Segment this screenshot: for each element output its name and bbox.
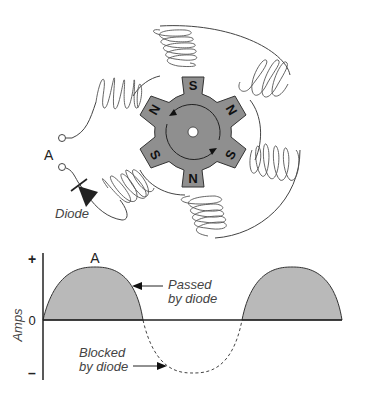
tick-minus: – [28, 365, 36, 381]
current-graph: + 0 – Amps A Passed by diode Blocked by … [10, 250, 342, 381]
coil-top [153, 30, 196, 67]
terminal-label: A [44, 147, 54, 163]
coil-bottom [181, 196, 226, 236]
coil-upper-right [239, 60, 288, 97]
blocked-label-line1: Blocked [79, 345, 126, 360]
alternator-diagram: A Diode S N S N S N + 0 – Amps [0, 0, 366, 407]
terminal-1 [59, 135, 66, 142]
wire-terminal-1 [66, 102, 96, 138]
rotor-shaft [188, 127, 198, 137]
peak-label: A [90, 250, 100, 266]
diode-label: Diode [55, 206, 89, 221]
y-axis-label: Amps [10, 308, 25, 343]
passed-label-line2: by diode [168, 291, 217, 306]
diode-icon [71, 179, 98, 207]
coil-right [250, 144, 299, 180]
rotor: S N S N S N [140, 77, 246, 187]
blocked-label-line2: by diode [79, 359, 128, 374]
terminal-2 [59, 164, 66, 171]
arrow-right-icon [157, 362, 167, 370]
tick-zero: 0 [28, 313, 35, 328]
pole-label: S [189, 78, 198, 93]
passed-half-cycle-1 [43, 267, 143, 320]
tick-plus: + [28, 251, 36, 267]
coil-lower-left [102, 170, 154, 203]
pole-label: N [188, 171, 197, 186]
passed-label-line1: Passed [168, 277, 212, 292]
passed-half-cycle-2 [242, 267, 342, 320]
